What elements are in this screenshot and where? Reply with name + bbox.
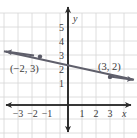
y-axis-label: y <box>72 13 78 24</box>
x-tick-label-3: 3 <box>108 108 113 119</box>
x-tick-label-neg3: −3 <box>13 108 24 119</box>
y-tick-label-4: 4 <box>59 36 64 47</box>
point-label-left: (−2, 3) <box>10 63 39 75</box>
x-tick-label-1: 1 <box>80 108 85 119</box>
y-tick-label-5: 5 <box>59 22 64 33</box>
coordinate-plane-figure: 5 4 3 2 1 −3 −2 −1 1 2 3 y x (−2, 3) (3,… <box>0 0 137 138</box>
x-axis-label: x <box>121 108 127 119</box>
x-tick-label-neg2: −2 <box>27 108 38 119</box>
point-label-right: (3, 2) <box>98 61 121 73</box>
y-tick-label-3: 3 <box>59 50 64 61</box>
y-tick-label-2: 2 <box>59 64 64 75</box>
coordinate-plot: 5 4 3 2 1 −3 −2 −1 1 2 3 y x (−2, 3) (3,… <box>0 0 137 138</box>
x-tick-label-2: 2 <box>94 108 99 119</box>
data-point-left <box>38 54 42 58</box>
y-tick-label-1: 1 <box>59 78 64 89</box>
x-tick-label-neg1: −1 <box>42 108 53 119</box>
data-point-right <box>108 75 112 79</box>
